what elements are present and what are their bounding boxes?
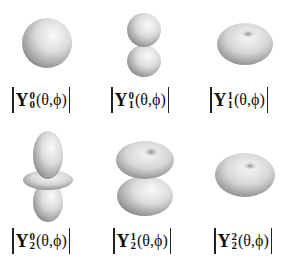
torus-Y22 [215,153,275,197]
label-Y22: Y 22 (θ,ϕ) [212,228,274,254]
sphere-Y00 [22,18,72,68]
label-Y00: Y 00 (θ,ϕ) [10,87,72,113]
label-Y11: Y 11 (θ,ϕ) [208,87,270,113]
lobes-ring-Y20 [23,131,73,222]
spherical-harmonics-figure: Y 00 (θ,ϕ) Y 01 (θ,ϕ) Y 11 (θ,ϕ) Y 02 (θ… [0,0,294,273]
label-Y21: Y 12 (θ,ϕ) [111,228,173,254]
label-Y10: Y 01 (θ,ϕ) [109,87,171,113]
abs-bar-right [69,87,71,113]
abs-bar-left [12,87,14,113]
double-torus-Y21 [116,141,174,216]
lobes-Y10 [127,13,161,77]
label-Y20: Y 02 (θ,ϕ) [10,228,72,254]
torus-Y11 [217,23,273,65]
